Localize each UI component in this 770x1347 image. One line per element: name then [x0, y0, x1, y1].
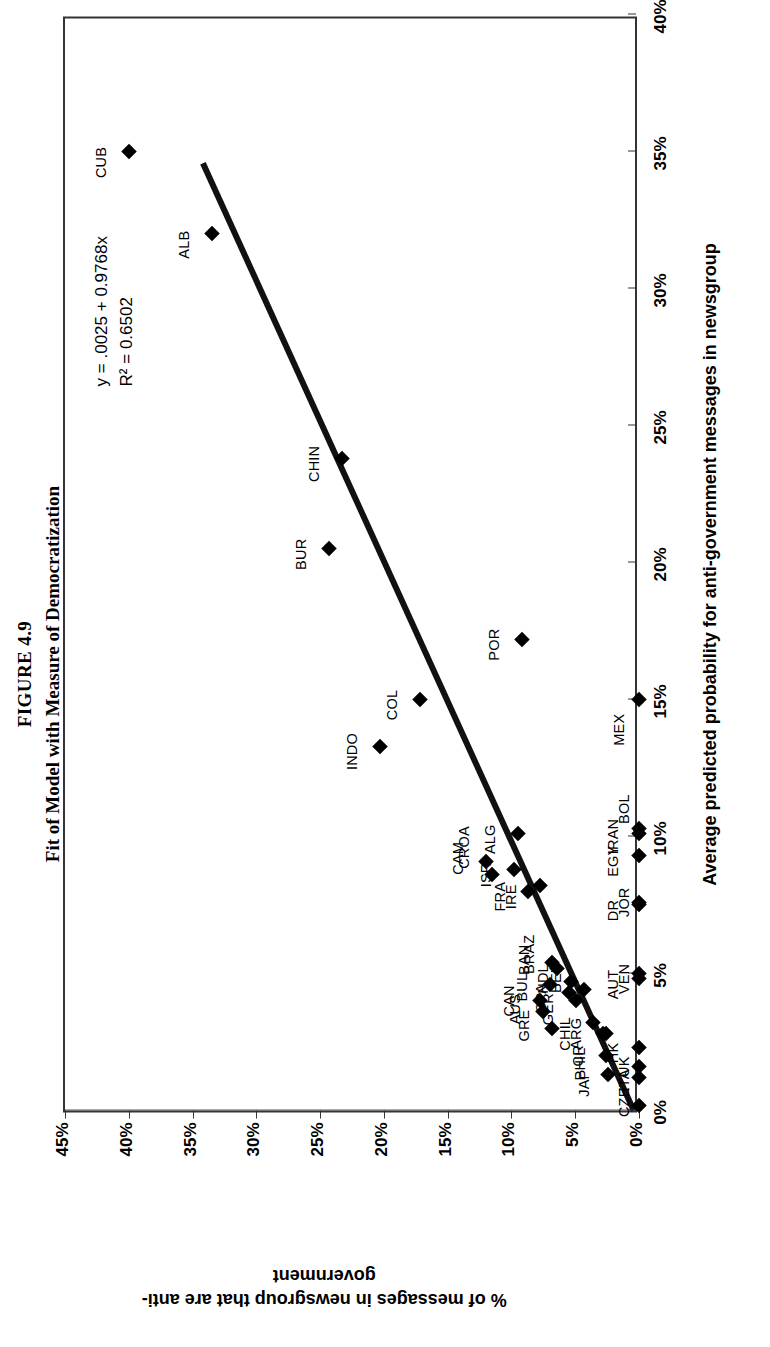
y-axis-tick	[193, 1110, 194, 1118]
data-point-label: DR	[605, 899, 621, 920]
data-point-label: CUB	[93, 146, 109, 177]
data-point-label: INDO	[344, 733, 360, 770]
plot-inner: CUBALBCHINBURINDOCOLPORMEXALGCAMCROAISRF…	[65, 18, 635, 1110]
y-axis-tick	[448, 1110, 449, 1118]
x-axis-tick	[628, 13, 636, 14]
figure-container: FIGURE 4.9 Fit of Model with Measure of …	[0, 0, 770, 1347]
data-point-label: JAP	[576, 1069, 592, 1096]
x-axis-tick	[628, 287, 636, 288]
plot-area: CUBALBCHINBURINDOCOLPORMEXALGCAMCROAISRF…	[63, 16, 637, 1112]
x-axis-tick-label: 0%	[651, 1100, 671, 1125]
y-axis-tick-label: 15%	[436, 1122, 456, 1174]
data-point-label: IRE	[503, 884, 519, 909]
data-point-label: GRE	[516, 1009, 532, 1041]
y-axis-tick-label: 20%	[372, 1122, 392, 1174]
y-axis-tick-label: 45%	[53, 1122, 73, 1174]
y-axis-tick-label: 10%	[499, 1122, 519, 1174]
x-axis-tick-label: 15%	[651, 684, 671, 718]
y-axis-title: % of messages in newsgroup that are anti…	[114, 1263, 534, 1312]
y-axis-tick	[65, 1110, 66, 1118]
y-axis-tick-label: 0%	[627, 1122, 647, 1174]
data-point-label: COL	[384, 689, 400, 719]
x-axis-tick-label: 35%	[651, 136, 671, 170]
data-point-label: ARG	[568, 1017, 584, 1049]
data-point-label: ALB	[176, 230, 192, 258]
data-point-label: VEN	[616, 963, 632, 993]
x-axis-tick	[628, 424, 636, 425]
y-axis-tick	[256, 1110, 257, 1118]
data-point-label: CHIN	[306, 445, 322, 481]
y-axis-tick	[511, 1110, 512, 1118]
x-axis-tick-label: 5%	[651, 963, 671, 988]
x-axis-tick-label: 10%	[651, 821, 671, 855]
r-squared-value: R² = 0.6502	[114, 236, 140, 386]
data-point-label: GER	[540, 993, 556, 1025]
x-axis-tick-label: 30%	[651, 273, 671, 307]
data-point-label: CROA	[456, 826, 472, 869]
y-axis-tick-label: 30%	[244, 1122, 264, 1174]
y-axis-tick-label: 5%	[563, 1122, 583, 1174]
y-axis-tick-label: 25%	[308, 1122, 328, 1174]
data-point-label: MEX	[611, 713, 627, 745]
data-point-label: BEL	[548, 964, 564, 992]
y-axis-tick	[320, 1110, 321, 1118]
trendline	[65, 18, 637, 1110]
regression-equation: y = .0025 + 0.9768x	[89, 236, 115, 386]
x-axis-title: Average predicted probability for anti-g…	[700, 16, 721, 1112]
x-axis-tick-label: 20%	[651, 547, 671, 581]
y-axis-tick-label: 40%	[117, 1122, 137, 1174]
y-axis-tick	[129, 1110, 130, 1118]
x-axis-tick-label: 40%	[651, 0, 671, 33]
y-axis-title-line: % of messages in newsgroup that are anti…	[114, 1263, 534, 1312]
data-point-label: BOL	[616, 794, 632, 824]
y-axis-tick	[384, 1110, 385, 1118]
data-point-label: CZE	[616, 1087, 632, 1117]
data-point-label: POR	[486, 628, 502, 660]
y-axis-tick-label: 35%	[181, 1122, 201, 1174]
x-axis-tick	[628, 561, 636, 562]
data-point-label: ALG	[482, 824, 498, 854]
x-axis-tick	[628, 150, 636, 151]
y-axis-tick	[575, 1110, 576, 1118]
x-axis-tick-label: 25%	[651, 410, 671, 444]
data-point-label: BUR	[293, 538, 309, 569]
figure-number: FIGURE 4.9	[14, 0, 36, 1347]
regression-annotation: y = .0025 + 0.9768x R² = 0.6502	[89, 236, 140, 386]
data-point-label: BUL	[514, 972, 530, 1001]
